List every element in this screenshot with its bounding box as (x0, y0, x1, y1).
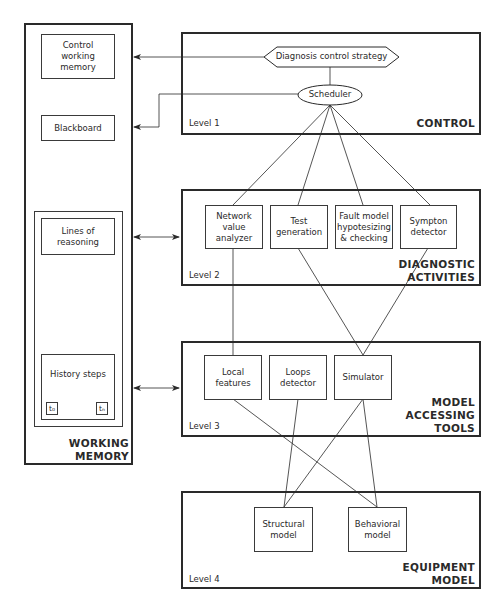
control-working-memory-label: Control working memory (60, 40, 96, 73)
loops-detector-box[interactable]: Loops detector (269, 355, 327, 400)
simulator-box[interactable]: Simulator (334, 355, 392, 400)
t0-label: t₀ (49, 404, 55, 413)
model-accessing-tools-title: MODEL ACCESSING TOOLS (406, 396, 475, 435)
level-2-label: Level 2 (189, 270, 220, 280)
behavioral-model-box[interactable]: Behavioral model (348, 507, 407, 552)
level-1-label: Level 1 (189, 118, 220, 128)
sympton-detector-box[interactable]: Sympton detector (400, 205, 457, 249)
lines-of-reasoning-box[interactable]: Lines of reasoning (41, 218, 115, 255)
loops-detector-label: Loops detector (280, 367, 316, 389)
test-generation-label: Test generation (276, 216, 322, 238)
scheduler-label: Scheduler (298, 89, 362, 99)
local-features-label: Local features (215, 367, 250, 389)
test-generation-box[interactable]: Test generation (270, 205, 328, 249)
tn-label: tₙ (99, 404, 105, 413)
level-3-label: Level 3 (189, 421, 220, 431)
structural-model-label: Structural model (262, 519, 304, 541)
tn-step-box[interactable]: tₙ (96, 402, 108, 415)
lines-of-reasoning-label: Lines of reasoning (57, 226, 99, 248)
control-working-memory-box[interactable]: Control working memory (41, 34, 115, 79)
network-value-analyzer-label: Network value analyzer (216, 211, 252, 244)
control-title: CONTROL (417, 117, 475, 130)
history-steps-label: History steps (50, 369, 106, 380)
blackboard-label: Blackboard (54, 123, 102, 134)
structural-model-box[interactable]: Structural model (254, 507, 313, 552)
t0-step-box[interactable]: t₀ (46, 402, 58, 415)
behavioral-model-label: Behavioral model (355, 519, 400, 541)
simulator-label: Simulator (342, 372, 383, 383)
working-memory-title: WORKING MEMORY (69, 437, 129, 463)
sympton-detector-label: Sympton detector (409, 216, 447, 238)
equipment-model-title: EQUIPMENT MODEL (403, 561, 476, 587)
fault-model-box[interactable]: Fault model hypotesizing & checking (335, 205, 393, 249)
network-value-analyzer-box[interactable]: Network value analyzer (205, 205, 263, 249)
local-features-box[interactable]: Local features (204, 355, 262, 400)
diagnosis-control-strategy-label: Diagnosis control strategy (270, 51, 393, 61)
level-4-label: Level 4 (189, 574, 220, 584)
blackboard-box[interactable]: Blackboard (41, 115, 115, 141)
diagnostic-activities-title: DIAGNOSTIC ACTIVITIES (399, 258, 475, 284)
fault-model-label: Fault model hypotesizing & checking (337, 211, 391, 244)
